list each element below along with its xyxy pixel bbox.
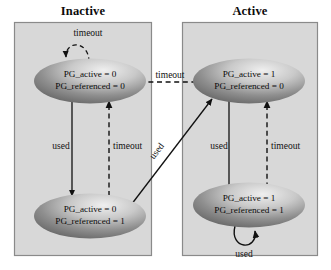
group-title-active: Active	[182, 4, 318, 19]
state-node-inactive-referenced	[34, 194, 146, 239]
state-node-active-referenced	[193, 183, 305, 228]
edge-label-inactive-top-selfloop: timeout	[48, 28, 128, 38]
diagram-canvas	[0, 0, 331, 270]
group-title-inactive: Inactive	[14, 4, 152, 19]
edge-label-active-bottom-selfloop: used	[222, 249, 266, 259]
edge-label-active-up-timeout: timeout	[271, 141, 317, 151]
state-diagram: Inactive Active PG_active = 0 PG_referen…	[0, 0, 331, 270]
edge-label-active-down-used: used	[198, 141, 240, 151]
edge-label-inactive-down-used: used	[40, 141, 82, 151]
state-node-active-unreferenced	[193, 59, 305, 104]
state-node-inactive-unreferenced	[34, 59, 146, 104]
edge-label-active-to-inactive-timeout: timeout	[140, 70, 200, 80]
